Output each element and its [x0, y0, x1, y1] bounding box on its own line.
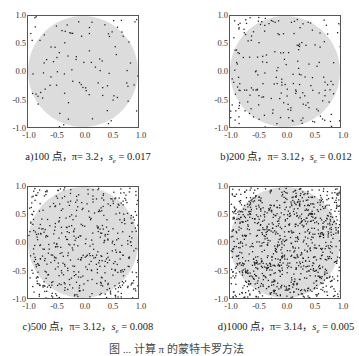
data-point [269, 269, 270, 270]
data-point [131, 237, 132, 238]
data-point [86, 203, 87, 204]
data-point [322, 228, 323, 229]
data-point [256, 208, 257, 209]
data-point [329, 89, 330, 90]
data-point [268, 229, 269, 230]
data-point [256, 262, 257, 263]
data-point [331, 126, 332, 127]
data-point [258, 296, 259, 297]
data-point [277, 33, 278, 34]
ytick-d-1: 0.5 [204, 210, 228, 219]
data-point [306, 278, 307, 279]
data-point [280, 259, 281, 260]
data-point [273, 292, 274, 293]
data-point [238, 258, 239, 259]
data-point [264, 211, 265, 212]
data-point [32, 73, 33, 74]
data-point [339, 249, 340, 250]
data-point [306, 209, 307, 210]
data-point [325, 90, 326, 91]
data-point [236, 194, 237, 195]
data-point [91, 270, 92, 271]
data-point [337, 293, 338, 294]
data-point [273, 290, 274, 291]
data-point [277, 233, 278, 234]
data-point [264, 229, 265, 230]
data-point [266, 228, 267, 229]
data-point [253, 290, 254, 291]
data-point [36, 234, 37, 235]
data-point [310, 269, 311, 270]
data-point [290, 107, 291, 108]
data-point [314, 228, 315, 229]
data-point [245, 244, 246, 245]
data-point [309, 232, 310, 233]
data-point [124, 220, 125, 221]
data-point [41, 218, 42, 219]
data-point [307, 210, 308, 211]
data-point [122, 269, 123, 270]
data-point [295, 269, 296, 270]
data-point [73, 236, 74, 237]
data-point [238, 218, 239, 219]
data-point [34, 17, 35, 18]
data-point [136, 276, 137, 277]
data-point [275, 258, 276, 259]
data-point [319, 189, 320, 190]
data-point [248, 280, 249, 281]
data-point [279, 235, 280, 236]
data-point [238, 247, 239, 248]
data-point [286, 296, 287, 297]
data-point [131, 223, 132, 224]
data-point [330, 251, 331, 252]
data-point [31, 202, 32, 203]
data-point [110, 291, 111, 292]
data-point [281, 84, 282, 85]
data-point [323, 287, 324, 288]
data-point [262, 267, 263, 268]
data-point [250, 197, 251, 198]
data-point [337, 256, 338, 257]
data-point [85, 266, 86, 267]
xtick-c-2: 0.0 [73, 302, 97, 311]
data-point [34, 188, 35, 189]
data-point [287, 109, 288, 110]
data-point [292, 246, 293, 247]
data-point [277, 245, 278, 246]
data-point [281, 92, 282, 93]
data-point [112, 250, 113, 251]
ytick-a-1: 0.5 [2, 39, 26, 48]
data-point [107, 239, 108, 240]
data-point [110, 205, 111, 206]
data-point [259, 241, 260, 242]
data-point [257, 280, 258, 281]
data-point [249, 294, 250, 295]
data-point [86, 90, 87, 91]
data-point [271, 292, 272, 293]
data-point [118, 205, 119, 206]
data-point [236, 246, 237, 247]
data-point [242, 246, 243, 247]
data-point [302, 293, 303, 294]
data-point [279, 216, 280, 217]
data-point [305, 236, 306, 237]
data-point [132, 282, 133, 283]
data-point [258, 205, 259, 206]
data-point [107, 253, 108, 254]
data-point [255, 267, 256, 268]
data-point [339, 267, 340, 268]
data-point [281, 265, 282, 266]
data-point [275, 215, 276, 216]
xtick-b-2: 0.0 [275, 131, 299, 140]
data-point [103, 215, 104, 216]
data-point [121, 222, 122, 223]
data-point [266, 62, 267, 63]
data-point [241, 265, 242, 266]
data-point [250, 283, 251, 284]
data-point [233, 212, 234, 213]
data-point [234, 246, 235, 247]
data-point [102, 87, 103, 88]
data-point [290, 237, 291, 238]
data-point [337, 32, 338, 33]
data-point [329, 223, 330, 224]
